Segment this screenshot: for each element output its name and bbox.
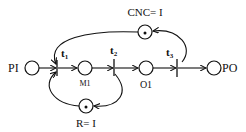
label-t2: t2 — [110, 44, 118, 58]
label-o1: O1 — [140, 79, 152, 90]
place-o1 — [139, 61, 153, 75]
label-t3: t3 — [166, 46, 174, 60]
label-cnc: CNC= I — [127, 6, 163, 18]
label-po: PO — [222, 61, 238, 75]
label-r: R= I — [76, 117, 96, 129]
place-po — [207, 61, 221, 75]
token-dot-icon — [85, 106, 88, 109]
petri-net-diagram: PI M1 O1 PO CNC= I R= I t1 t2 t3 — [0, 0, 246, 132]
label-t1: t1 — [61, 47, 69, 61]
place-m1 — [78, 61, 92, 75]
place-pi — [25, 61, 39, 75]
label-m1: M1 — [79, 79, 90, 88]
token-dot-icon — [144, 32, 147, 35]
arc-t2-r — [94, 74, 122, 106]
arc-r-t1 — [49, 72, 79, 106]
label-pi: PI — [8, 61, 19, 75]
